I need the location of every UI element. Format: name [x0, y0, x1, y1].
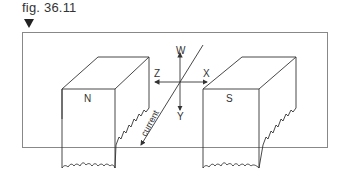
magnet-diagram: N S W Y Z X current — [0, 0, 339, 181]
magnet-south — [203, 57, 296, 168]
magnet-north-label: N — [84, 93, 91, 104]
axis-z-label: Z — [154, 68, 160, 79]
magnet-south-label: S — [226, 93, 233, 104]
axis-cross — [155, 53, 207, 110]
axis-x-label: X — [203, 68, 210, 79]
axis-y-label: Y — [177, 111, 184, 122]
magnet-north — [62, 57, 149, 168]
axis-w-label: W — [176, 45, 186, 56]
